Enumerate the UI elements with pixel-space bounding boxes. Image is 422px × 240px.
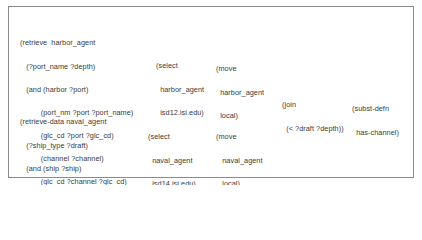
node-line: harbor_agent xyxy=(216,89,264,97)
node-line: (move xyxy=(216,133,263,141)
query-line: (retrieve-data naval_agent xyxy=(20,118,128,126)
join-node: (join (< ?draft ?depth)) xyxy=(282,86,344,140)
node-line: naval_agent xyxy=(148,157,196,165)
harbor-select-node: (select harbor_agent isd12.isi.edu) xyxy=(156,47,204,124)
node-line: (join xyxy=(282,101,344,109)
subst-defn-node: (subst-defn has-channel) xyxy=(352,90,399,144)
node-line: (move xyxy=(216,65,264,73)
naval-select-node: (select naval_agent isd14.isi.edu) xyxy=(148,118,196,185)
node-line: isd14.isi.edu) xyxy=(148,180,196,185)
node-line: isd12.isi.edu) xyxy=(156,109,204,117)
node-line: (select xyxy=(148,133,196,141)
harbor-move-node: (move harbor_agent local) xyxy=(216,50,264,127)
node-line: (< ?draft ?depth)) xyxy=(282,125,344,133)
node-line: (subst-defn xyxy=(352,105,399,113)
naval-move-node: (move naval_agent local) xyxy=(216,118,263,185)
query-line: (retrieve harbor_agent xyxy=(20,39,146,47)
query-line: (?ship_type ?draft) xyxy=(20,142,128,150)
naval-retrieve-query: (retrieve-data naval_agent (?ship_type ?… xyxy=(20,103,128,185)
query-line: (and (ship ?ship) xyxy=(20,165,128,173)
node-line: naval_agent xyxy=(216,157,263,165)
query-line: (?port_name ?depth) xyxy=(20,63,146,71)
node-line: harbor_agent xyxy=(156,86,204,94)
node-line: has-channel) xyxy=(352,129,399,137)
node-line: (select xyxy=(156,62,204,70)
node-line: local) xyxy=(216,180,263,185)
query-line: (and (harbor ?port) xyxy=(20,86,146,94)
